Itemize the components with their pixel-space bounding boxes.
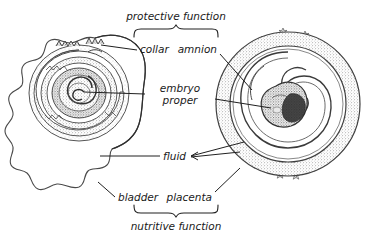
label-embryo-proper-line1: embryo	[160, 82, 200, 94]
brace-protective	[134, 25, 218, 37]
diagram-canvas: protective function collar amnion embryo…	[0, 0, 367, 239]
brace-nutritive	[134, 205, 218, 217]
label-collar: collar	[140, 43, 169, 55]
label-placenta: placenta	[166, 191, 212, 203]
label-embryo-proper-line2: proper	[162, 94, 199, 106]
label-bladder: bladder	[118, 191, 159, 203]
leader-bladder	[98, 182, 115, 197]
label-fluid: fluid	[163, 150, 186, 162]
leader-placenta	[215, 168, 240, 192]
right-panel-group	[216, 28, 360, 179]
left-panel-group	[5, 35, 145, 189]
label-nutritive-function: nutritive function	[131, 220, 222, 232]
label-protective-function: protective function	[125, 10, 226, 22]
label-amnion: amnion	[178, 43, 217, 55]
figure-svg: protective function collar amnion embryo…	[0, 0, 367, 239]
